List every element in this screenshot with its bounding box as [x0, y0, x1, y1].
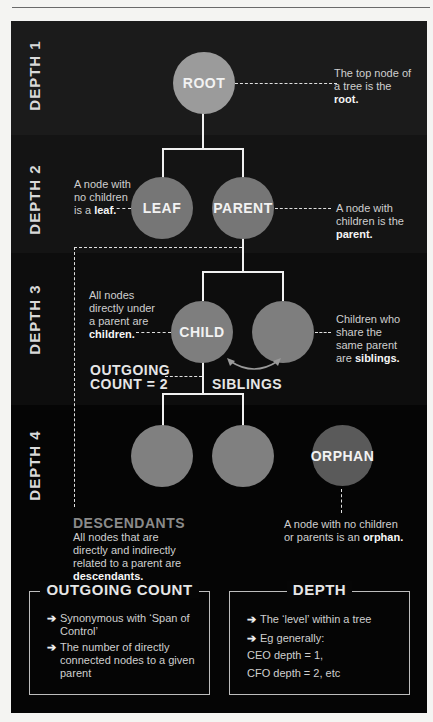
depth-1-label: DEPTH 1 [26, 26, 43, 126]
arrow-right-icon: ➔ [47, 641, 56, 654]
root-connector [202, 112, 204, 149]
grandchild-2-connector [242, 393, 244, 426]
outgoing-count-box-title: OUTGOING COUNT [40, 581, 198, 598]
parent-connector-in [242, 148, 244, 178]
descendants-pointer-horizontal [74, 247, 242, 248]
child-node: CHILD [171, 301, 233, 363]
root-node-label: ROOT [183, 75, 225, 91]
grandchild-node-2 [212, 425, 274, 487]
child-node-label: CHILD [179, 324, 224, 340]
arrow-right-icon: ➔ [47, 612, 56, 625]
child-connector [202, 271, 204, 301]
leaf-node-label: LEAF [143, 200, 182, 216]
siblings-pointer [315, 332, 331, 333]
descendants-title: DESCENDANTS [73, 515, 185, 531]
depth-2-bar [162, 148, 244, 150]
orphan-annotation: A node with no children or parents is an… [284, 518, 409, 544]
depth-example-line: CEO depth = 1, [247, 648, 402, 663]
outgoing-count-pointer [165, 376, 202, 377]
depth-example-line: CFO depth = 2, etc [247, 666, 402, 681]
outgoing-count-item: ➔The number of directly connected nodes … [47, 641, 197, 680]
parent-annotation: A node with children is the parent. [336, 202, 410, 241]
grandchild-1-connector [162, 393, 164, 426]
depth-4-bar [162, 393, 244, 395]
page-top-rule [12, 7, 430, 8]
root-pointer [235, 83, 337, 84]
outgoing-count-box: OUTGOING COUNT ➔Synonymous with ‘Span of… [29, 591, 210, 695]
outgoing-count-item: ➔Synonymous with ‘Span of Control’ [47, 612, 197, 638]
orphan-node: ORPHAN [312, 425, 373, 486]
depth-item: ➔Eg generally: [247, 632, 402, 645]
siblings-annotation: Children who share the same parent are s… [336, 313, 408, 365]
siblings-label: SIBLINGS [212, 377, 282, 391]
leaf-annotation: A node with no children is a leaf. [74, 178, 132, 217]
tree-terminology-panel: DEPTH 1 DEPTH 2 DEPTH 3 DEPTH 4 ROOT LEA… [11, 21, 427, 713]
parent-node-label: PARENT [213, 200, 273, 216]
depth-3-bar [202, 271, 284, 273]
orphan-pointer [341, 489, 342, 513]
depth-2-label: DEPTH 2 [26, 150, 43, 250]
depth-3-label: DEPTH 3 [26, 270, 43, 370]
depth-box: DEPTH ➔The ‘level’ within a tree ➔Eg gen… [229, 591, 410, 695]
orphan-node-label: ORPHAN [311, 448, 375, 464]
arrow-right-icon: ➔ [247, 632, 256, 645]
parent-pointer [275, 208, 331, 209]
parent-connector-out [242, 236, 244, 272]
child-connector-out [202, 361, 204, 394]
outgoing-count-label: OUTGOING COUNT = 2 [90, 363, 170, 391]
depth-box-title: DEPTH [287, 581, 352, 598]
arrow-right-icon: ➔ [247, 613, 256, 626]
root-node: ROOT [173, 52, 235, 114]
descendants-pointer-vertical [74, 247, 75, 507]
sibling-connector [282, 271, 284, 301]
root-annotation: The top node of a tree is the root. [334, 67, 414, 106]
children-annotation: All nodes directly under a parent are ch… [89, 289, 161, 341]
depth-4-label: DEPTH 4 [26, 416, 43, 516]
grandchild-node-1 [131, 425, 193, 487]
depth-item: ➔The ‘level’ within a tree [247, 613, 402, 626]
sibling-node [252, 301, 314, 363]
leaf-connector [162, 148, 164, 178]
parent-node: PARENT [212, 177, 274, 239]
descendants-annotation: All nodes that are directly and indirect… [73, 531, 183, 583]
leaf-node: LEAF [131, 177, 193, 239]
